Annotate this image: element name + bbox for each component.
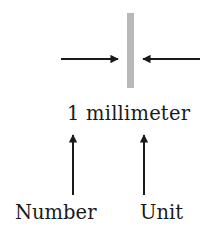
measurement-label: 1 millimeter (67, 104, 190, 124)
unit-label: Unit (140, 203, 183, 223)
millimeter-bar (127, 13, 134, 88)
measurement-diagram: 1 millimeter Number Unit (0, 0, 215, 233)
number-label: Number (15, 203, 96, 223)
